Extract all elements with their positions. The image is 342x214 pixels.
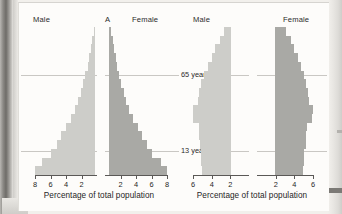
pyramid-b-male-bar (208, 62, 231, 71)
axis-tick-label: 4 (210, 180, 214, 189)
pyramid-a-male-bar (88, 62, 96, 71)
pyramid-a-female-bar (109, 123, 138, 132)
pyramid-a-female-bar (109, 105, 129, 114)
pyramid-b-male-bar (200, 140, 232, 149)
pyramid-b-male-bar (193, 114, 231, 123)
pyramid-a-male-bar (42, 158, 95, 167)
axis-tick-label: 2 (118, 180, 122, 189)
pyramid-a-male-label: Male (33, 15, 50, 24)
axis-tick (82, 175, 83, 179)
pyramid-a-female-bar (109, 149, 152, 158)
pyramid-a-male-bar (92, 36, 95, 45)
axis-tick (167, 175, 168, 179)
pyramid-b-male-bar (201, 149, 231, 158)
pyramid-a-female-bar (109, 88, 124, 97)
pyramid-a-female-bar (109, 36, 113, 45)
scan-page-edge-mark-bottom (328, 188, 342, 193)
pyramid-a-female-bar (109, 53, 116, 62)
pyramid-b-male-bars (193, 27, 231, 175)
pyramid-b-male-bar (201, 79, 231, 88)
pyramid-b-female-bar (275, 71, 304, 80)
pyramid-a-male-bar (66, 123, 95, 132)
axis-tick-label: 6 (311, 180, 315, 189)
pyramid-a-female-label: Female (132, 15, 158, 24)
pyramid-a-male-bar (83, 79, 95, 88)
axis-tick (230, 175, 231, 179)
pyramid-a-female-bar (109, 79, 121, 88)
pyramid-b-female-bar (275, 105, 313, 114)
pyramid-a-male-bar (35, 166, 95, 175)
scan-page-edge-mark-middle (337, 130, 342, 133)
pyramid-b-plot-area: 65 years 13 years 642246 (193, 27, 313, 175)
pyramid-a-panel-label: A (105, 15, 110, 24)
axis-tick (193, 175, 194, 179)
axis-tick (66, 175, 67, 179)
pyramid-b-axis-female (257, 175, 313, 176)
pyramid-b-female-bar (275, 158, 304, 167)
pyramid-a-center-gap (97, 27, 105, 175)
pyramid-b-female-bar (275, 44, 295, 53)
pyramid-a-male-bar (78, 97, 96, 106)
pyramid-b-female-bar (275, 166, 303, 175)
pyramid-a-female-bar (109, 62, 118, 71)
pyramid-a-female-bar (109, 140, 147, 149)
pyramid-a-female-bar (109, 166, 167, 175)
pyramid-b-male-bar (201, 158, 231, 167)
axis-tick (294, 175, 295, 179)
pyramid-a-male-bar (51, 149, 96, 158)
axis-tick-label: 6 (149, 180, 153, 189)
pyramid-a-male-bar (81, 88, 96, 97)
pyramid-a-male-bar (94, 27, 96, 36)
pyramid-a-male-bar (75, 105, 96, 114)
axis-tick-label: 6 (191, 180, 195, 189)
pyramid-a-female-bar (109, 131, 142, 140)
axis-tick-label: 2 (228, 180, 232, 189)
pyramid-b-female-bar (275, 123, 308, 132)
pyramid-b-female-bar (275, 36, 291, 45)
axis-tick-label: 4 (64, 180, 68, 189)
axis-tick (152, 175, 153, 179)
pyramid-a-male-bar (61, 131, 95, 140)
pyramid-a-female-bar (109, 158, 161, 167)
pyramid-b-male-bar (224, 27, 231, 36)
axis-tick-label: 6 (48, 180, 52, 189)
axis-tick-label: 2 (274, 180, 278, 189)
pyramid-b-female-label: Female (283, 15, 309, 24)
pyramid-b-male-bar (198, 97, 232, 106)
axis-tick-label: 8 (33, 180, 37, 189)
pyramid-b-female-bar (275, 53, 298, 62)
pyramid-a-axis-title: Percentage of total population (19, 191, 179, 200)
pyramid-b-female-bar (275, 149, 304, 158)
pyramid-b-male-label: Male (193, 15, 210, 24)
axis-tick (121, 175, 122, 179)
pyramid-b-female-bar (275, 131, 307, 140)
pyramid-a-female-bar (109, 44, 114, 53)
figure-page: Male A Female 86422468 Percentage of tot… (18, 2, 329, 211)
pyramid-b-female-bar (275, 88, 309, 97)
pyramid-b-female-bar (275, 62, 301, 71)
pyramid-b-male-bar (199, 88, 232, 97)
pyramid-a-female-bar (109, 97, 126, 106)
pyramid-a-female-bars (109, 27, 167, 175)
pyramid-b-male-bar (212, 53, 232, 62)
pyramid-b-female-bar (275, 97, 310, 106)
pyramid-b-male-bar (204, 71, 231, 80)
pyramid-a-female-bar (109, 114, 133, 123)
pyramid-a-female-bar (109, 27, 111, 36)
pyramid-a-male-bar (89, 53, 95, 62)
axis-tick (313, 175, 314, 179)
pyramid-a-plot-area: 86422468 (35, 27, 167, 175)
axis-tick-label: 4 (292, 180, 296, 189)
pyramid-b-male-bar (199, 131, 232, 140)
pyramid-b-axis-male (193, 175, 249, 176)
pyramid-b-male-bar (220, 36, 231, 45)
pyramid-a-female-bar (109, 71, 119, 80)
pyramid-a-male-bar (71, 114, 96, 123)
axis-tick (51, 175, 52, 179)
axis-tick-label: 8 (165, 180, 169, 189)
pyramid-b-axis-title: Percentage of total population (177, 191, 327, 200)
axis-tick (35, 175, 36, 179)
scan-page-edge-right (328, 0, 342, 214)
pyramid-b-male-bar (199, 123, 232, 132)
pyramid-b-female-bar (275, 79, 307, 88)
